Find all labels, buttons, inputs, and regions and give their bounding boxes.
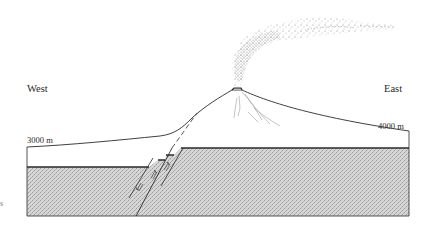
- eruption-plume: [232, 17, 395, 88]
- cropped-text-fragment: s: [0, 199, 3, 208]
- west-direction-label: West: [27, 83, 48, 94]
- volcano-flank-streaks: [234, 92, 280, 126]
- summit-crater: [232, 88, 242, 90]
- east-direction-label: East: [384, 83, 402, 94]
- cross-section-svg: [0, 0, 428, 229]
- west-elevation-label: 3000 m: [27, 135, 53, 145]
- bedrock-layer: [27, 131, 409, 216]
- cross-section-diagram: West East 3000 m 4000 m s: [0, 0, 428, 229]
- ground-surface-profile: [27, 90, 409, 147]
- east-elevation-label: 4000 m: [378, 121, 404, 131]
